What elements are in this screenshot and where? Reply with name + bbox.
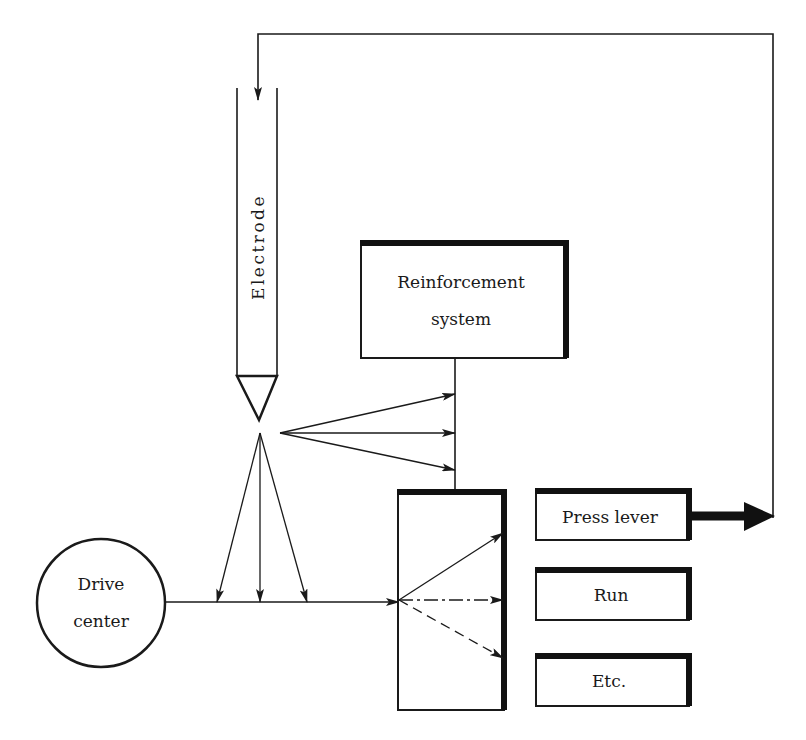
response-run-box: Run xyxy=(535,567,692,620)
reinforcement-system-box: Reinforcement system xyxy=(360,240,569,358)
press-lever-output-arrow xyxy=(689,502,775,531)
run-label: Run xyxy=(594,585,629,605)
drive-center: Drive center xyxy=(37,539,165,667)
reinforcement-label-2: system xyxy=(431,309,491,329)
electrode-label: Electrode xyxy=(248,194,268,300)
electrode-to-drive-arrows xyxy=(217,433,307,602)
arrow xyxy=(260,433,307,602)
electrode: Electrode xyxy=(237,88,277,420)
response-press-lever-box: Press lever xyxy=(535,488,692,540)
etc-label: Etc. xyxy=(592,671,626,691)
drive-center-label-2: center xyxy=(73,611,129,631)
electrode-tip xyxy=(237,376,277,420)
arrow xyxy=(280,433,455,470)
press-lever-label: Press lever xyxy=(562,507,659,527)
reinforcement-label-1: Reinforcement xyxy=(397,272,525,292)
arrow xyxy=(280,394,455,433)
drive-center-label-1: Drive xyxy=(78,574,125,594)
electrode-to-reinforcement-arrows xyxy=(280,394,455,470)
arrow xyxy=(217,433,260,602)
response-etc-box: Etc. xyxy=(535,653,692,706)
diagram-canvas: Electrode Reinforcement system Drive cen… xyxy=(0,0,806,740)
